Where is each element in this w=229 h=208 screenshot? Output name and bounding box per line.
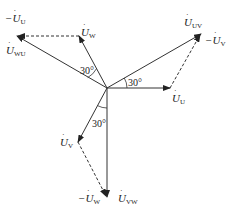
- label-UV: UUV ·: [184, 10, 202, 30]
- svg-text:·: ·: [174, 86, 177, 95]
- angle-label-bottom: 30°: [92, 118, 106, 129]
- angle-label-right: 30°: [128, 77, 142, 88]
- svg-text:·: ·: [83, 20, 86, 29]
- svg-text:·: ·: [14, 6, 17, 15]
- label-neg-W: −UW ·: [78, 186, 100, 206]
- label-VW: UVW ·: [118, 186, 138, 206]
- label-sub: V: [220, 40, 225, 48]
- svg-text:·: ·: [214, 28, 217, 37]
- phasor-V: [78, 88, 107, 142]
- label-sub: UV: [192, 22, 202, 30]
- phasor-neg-W: [78, 142, 106, 196]
- label-sub: U: [180, 98, 185, 106]
- angle-arc-V-VW: [98, 106, 108, 108]
- label-sub: WU: [14, 50, 26, 58]
- label-sub: W: [93, 198, 100, 206]
- label-V: UV ·: [60, 130, 73, 150]
- label-prefix: −: [205, 34, 212, 46]
- label-prefix: −: [5, 12, 12, 24]
- angle-arc-U-UV: [124, 78, 127, 88]
- label-sub: U: [20, 18, 25, 26]
- phasor-UV: [107, 34, 201, 88]
- label-neg-V: −UV ·: [205, 28, 225, 48]
- label-sub: V: [68, 142, 73, 150]
- label-sub: W: [89, 32, 96, 40]
- angle-label-top: 30°: [80, 65, 94, 76]
- label-neg-U: −UU ·: [5, 6, 25, 26]
- label-WU: UWU ·: [6, 38, 26, 58]
- svg-text:·: ·: [120, 186, 123, 195]
- svg-text:·: ·: [87, 186, 90, 195]
- svg-text:·: ·: [62, 130, 65, 139]
- label-U: UU ·: [172, 86, 185, 106]
- svg-text:·: ·: [8, 38, 11, 47]
- svg-text:·: ·: [186, 10, 189, 19]
- phasor-diagram: 30° 30° 30° −UU · UWU · UW · UUV · −UV ·…: [0, 0, 229, 208]
- label-W: UW ·: [81, 20, 96, 40]
- label-sub: VW: [126, 198, 138, 206]
- label-prefix: −: [78, 192, 85, 204]
